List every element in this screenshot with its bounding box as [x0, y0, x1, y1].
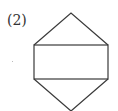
bottom-triangle [34, 79, 108, 111]
top-triangle [34, 13, 108, 45]
hexagon-net-figure [0, 0, 118, 111]
middle-rectangle [34, 45, 108, 79]
